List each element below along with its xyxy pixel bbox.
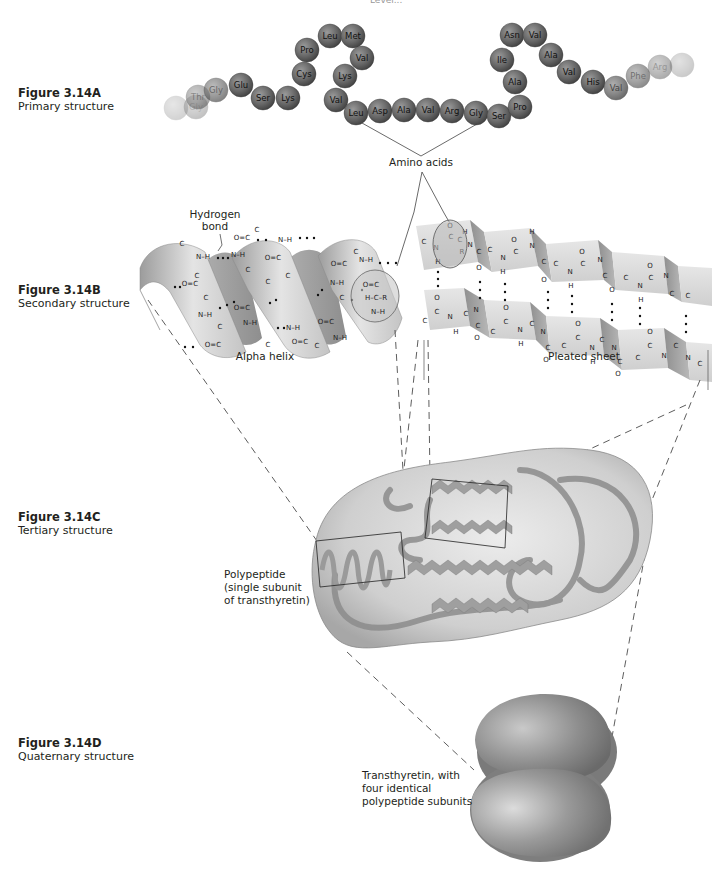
svg-text:C: C [340,294,345,302]
svg-text:N–H: N–H [243,319,257,327]
amino-acid-bead: Ser [251,86,275,110]
svg-text:N: N [637,282,642,290]
svg-text:N–H: N–H [231,251,245,259]
amino-acid-bead: Val [350,46,374,70]
svg-text:C: C [266,278,271,286]
svg-text:Lys: Lys [338,71,352,81]
svg-text:N: N [517,326,522,334]
amino-acid-bead: Ala [392,98,416,122]
svg-text:Asp: Asp [372,106,388,116]
svg-text:Asn: Asn [504,30,520,40]
svg-text:C: C [286,272,291,280]
amino-acid-bead: Glu [229,73,253,97]
svg-text:H: H [568,282,573,290]
svg-text:N: N [540,328,545,336]
amino-acid-bead: Pro [295,38,319,62]
cropped-header-text: Level... [370,0,402,5]
svg-text:C: C [600,336,605,344]
amino-acid-bead: Ile [490,48,514,72]
svg-text:Ala: Ala [508,77,521,87]
svg-text:C: C [423,317,428,325]
svg-text:His: His [586,77,600,87]
svg-text:Lys: Lys [281,93,295,103]
svg-text:Pro: Pro [300,45,314,55]
svg-text:Met: Met [345,31,362,41]
pleated-sheet-label: Pleated sheet [548,350,620,362]
svg-text:N–H: N–H [359,256,373,264]
svg-text:C: C [266,341,271,349]
svg-text:C: C [530,320,535,328]
svg-text:O: O [579,248,585,256]
svg-text:N: N [473,306,478,314]
amino-acid-bead: Ala [503,70,527,94]
hydrogen-bond-label-line1: Hydrogen [189,208,240,220]
svg-text:C: C [315,342,320,350]
svg-text:N–H: N–H [371,308,385,316]
svg-text:N–H: N–H [198,311,212,319]
svg-text:N: N [661,352,666,360]
svg-text:N–H: N–H [330,279,344,287]
svg-text:N: N [500,254,505,262]
svg-text:N–H: N–H [333,334,347,342]
svg-text:C: C [488,246,493,254]
svg-text:O=C: O=C [182,280,198,288]
svg-text:C: C [246,266,251,274]
svg-text:Pro: Pro [513,102,527,112]
svg-text:Gly: Gly [209,85,223,95]
quaternary-label-line3: polypeptide subunits [362,795,472,807]
svg-text:C: C [195,272,200,280]
svg-text:H: H [518,340,523,348]
protein-structure-diagram: Level... GlyThrGlyGluSerLysCysProLeuMetV… [0,0,712,884]
svg-text:O=C: O=C [265,254,281,262]
quaternary-structure [470,694,617,862]
svg-text:Val: Val [356,53,369,63]
svg-text:N: N [597,256,602,264]
svg-text:Arg: Arg [445,106,460,116]
amino-acid-bead: Arg [440,99,464,123]
amino-acid-bead: Leu [318,24,342,48]
amino-acid-bead: Val [557,60,581,84]
svg-text:C: C [674,342,679,350]
svg-text:N: N [529,242,534,250]
svg-text:Arg: Arg [653,62,668,72]
svg-text:N–H: N–H [286,324,300,332]
svg-text:Val: Val [330,95,343,105]
amino-acids-label: Amino acids [389,156,453,168]
svg-text:Glu: Glu [234,80,248,90]
svg-text:O: O [575,320,581,328]
svg-text:C: C [554,260,559,268]
amino-acid-bead: Val [604,76,628,100]
quaternary-label-line1: Transthyretin, with [361,769,460,781]
svg-text:C: C [476,322,481,330]
svg-text:O=C: O=C [331,260,347,268]
svg-text:C: C [435,308,440,316]
amino-acid-bead: His [581,70,605,94]
amino-acid-bead: Val [523,23,547,47]
tertiary-label-line3: of transthyretin) [224,594,310,606]
tertiary-structure [312,448,652,648]
tertiary-label-line2: (single subunit [224,581,302,593]
svg-text:O: O [647,328,653,336]
svg-text:N: N [447,313,452,321]
svg-text:C: C [542,258,547,266]
svg-text:N–H: N–H [278,236,292,244]
svg-text:O: O [476,264,482,272]
amino-acid-bead: Met [341,24,365,48]
svg-text:Val: Val [422,105,435,115]
svg-text:C: C [576,334,581,342]
svg-text:Gly: Gly [469,108,483,118]
amino-acid-bead: Val [416,98,440,122]
amino-acid-bead: Phe [626,64,650,88]
svg-text:O=C: O=C [292,338,308,346]
svg-text:C: C [354,248,359,256]
svg-text:O: O [503,304,509,312]
amino-acid-bead: Pro [508,95,532,119]
amino-acid-bead: Val [324,88,348,112]
svg-text:C: C [698,360,703,368]
hydrogen-bond-label-line2: bond [202,220,228,232]
svg-text:O: O [647,262,653,270]
amino-acid-bead: Asn [500,23,524,47]
svg-text:Thr: Thr [190,92,206,102]
svg-text:O=C: O=C [318,318,334,326]
svg-text:N: N [567,268,572,276]
